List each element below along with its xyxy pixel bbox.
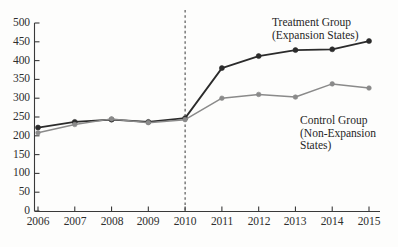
data-series-group xyxy=(36,39,372,136)
data-point xyxy=(220,96,225,101)
series-treatment xyxy=(36,39,372,130)
data-point xyxy=(109,117,114,122)
x-axis-ticks xyxy=(38,207,369,212)
data-point xyxy=(367,39,372,44)
data-point xyxy=(146,120,151,125)
plot-area xyxy=(0,0,398,247)
axes xyxy=(35,23,381,212)
y-axis-ticks xyxy=(35,23,40,211)
line-chart: 500 450 400 350 300 250 200 150 100 50 0… xyxy=(0,0,398,247)
data-point xyxy=(183,117,188,122)
data-point xyxy=(367,86,372,91)
data-point xyxy=(256,92,261,97)
data-point xyxy=(293,48,298,53)
data-point xyxy=(330,82,335,87)
data-point xyxy=(256,54,261,59)
data-point xyxy=(36,130,41,135)
data-point xyxy=(72,122,77,127)
data-point xyxy=(36,125,41,130)
data-point xyxy=(219,66,224,71)
data-point xyxy=(330,47,335,52)
data-point xyxy=(293,95,298,100)
series-control xyxy=(36,82,372,135)
